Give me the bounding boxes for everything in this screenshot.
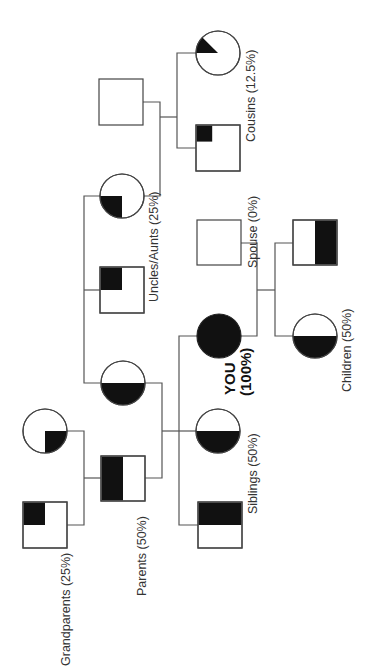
parents-marriage-line (145, 383, 162, 478)
label-cousins: Cousins (12.5%) (244, 50, 258, 142)
label-you: YOU (221, 362, 238, 395)
sister-symbol (196, 409, 240, 453)
label-children: Children (50%) (340, 309, 354, 392)
label-parents: Parents (50%) (135, 516, 149, 596)
grandparents-marriage-line (67, 431, 84, 525)
label-you-percent: (100%) (237, 348, 254, 396)
aunt-marriage-line (143, 102, 160, 196)
son-symbol (293, 220, 337, 265)
daughter-symbol (293, 314, 337, 358)
cousin-male-symbol (196, 125, 240, 171)
father-symbol (101, 456, 145, 501)
children-sibship-line (275, 243, 293, 336)
label-grandparents: Grandparents (25%) (59, 553, 73, 666)
spouse-symbol (197, 220, 241, 265)
grandmother-symbol (23, 409, 67, 453)
brother-symbol (198, 502, 242, 548)
aunt-symbol (100, 174, 144, 218)
aunt-spouse-symbol (99, 79, 143, 125)
label-siblings: Siblings (50%) (246, 433, 260, 514)
label-spouse: Spouse (0%) (246, 196, 260, 268)
grandfather-symbol (23, 502, 67, 548)
label-uncles-aunts: Uncles/Aunts (25%) (147, 192, 161, 302)
mother-symbol (101, 361, 145, 405)
uncle-symbol (100, 267, 144, 313)
pedigree-diagram: Grandparents (25%) Parents (50%) Uncles/… (0, 0, 371, 668)
cousins-sibship-line (177, 53, 196, 148)
you-symbol (197, 314, 241, 358)
cousin-female-symbol (196, 31, 240, 75)
